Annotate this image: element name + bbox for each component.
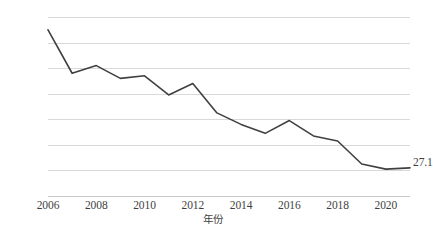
plot-area: 3332313029282726 20062008201020122014201… <box>48 17 410 196</box>
x-tick-label: 2008 <box>74 199 118 211</box>
x-tick-label: 2014 <box>219 199 263 211</box>
x-axis-title-text: 年份 <box>203 214 223 225</box>
x-tick-label: 2020 <box>364 199 408 211</box>
x-tick-label: 2012 <box>171 199 215 211</box>
x-tick-label: 2010 <box>123 199 167 211</box>
end-value-label: 27.1 <box>413 156 433 168</box>
series-layer <box>48 17 410 196</box>
x-tick-label: 2016 <box>267 199 311 211</box>
x-tick-label: 2018 <box>316 199 360 211</box>
x-axis-title: 年份 <box>0 214 426 226</box>
series-line-revenue-share <box>48 30 410 169</box>
gridline-26 <box>48 196 410 197</box>
x-tick-label: 2006 <box>26 199 70 211</box>
